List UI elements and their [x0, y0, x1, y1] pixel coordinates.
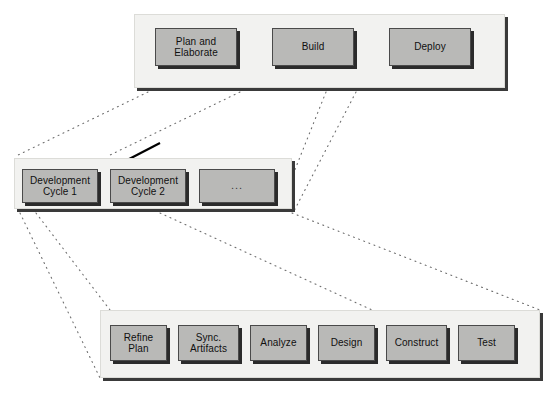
- connector-phases-to-cycles-1: [108, 92, 240, 156]
- box-development-cycle-2[interactable]: Development Cycle 2: [110, 169, 186, 203]
- connector-cycles-to-activities-3: [292, 213, 540, 310]
- connector-cycles-to-activities-0: [20, 213, 100, 378]
- connector-cycles-to-activities-2: [160, 213, 372, 310]
- box-analyze[interactable]: Analyze: [250, 325, 307, 361]
- box-ellipsis[interactable]: ...: [199, 169, 275, 203]
- box-development-cycle-1[interactable]: Development Cycle 1: [22, 169, 98, 203]
- box-test[interactable]: Test: [458, 325, 515, 361]
- box-sync-artifacts[interactable]: Sync. Artifacts: [178, 325, 239, 361]
- connector-phases-to-cycles-3: [294, 92, 356, 211]
- box-plan-and-elaborate[interactable]: Plan and Elaborate: [155, 28, 237, 66]
- connector-cycles-to-activities-1: [36, 213, 110, 310]
- connector-phases-to-cycles-2: [294, 92, 326, 172]
- box-deploy[interactable]: Deploy: [389, 28, 471, 66]
- box-refine-plan[interactable]: Refine Plan: [110, 325, 167, 361]
- box-build[interactable]: Build: [272, 28, 354, 66]
- process-diagram: Plan and ElaborateBuildDeployDevelopment…: [0, 0, 551, 393]
- box-design[interactable]: Design: [318, 325, 375, 361]
- connector-phases-to-cycles-0: [16, 92, 148, 156]
- box-construct[interactable]: Construct: [386, 325, 447, 361]
